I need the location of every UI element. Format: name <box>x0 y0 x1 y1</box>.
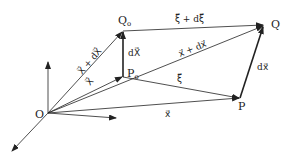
label-vector-X: X⃗ <box>83 76 95 88</box>
label-vector-dx: dx⃗ <box>257 62 269 72</box>
label-vector-dX: dX⃗ <box>128 47 140 58</box>
deformation-vector-diagram: O Qo Po Q P X⃗ + dX⃗ X⃗ dX⃗ ξ⃗ + dξ⃗ x⃗ … <box>0 0 291 160</box>
label-vector-x: x⃗ <box>165 109 171 119</box>
label-point-Q: Q <box>271 18 280 31</box>
axis-right <box>48 113 116 118</box>
vector-xi-plus-dxi <box>123 25 263 31</box>
label-vector-X-plus-dX: X⃗ + dX⃗ <box>75 45 103 76</box>
label-point-Q0: Qo <box>118 14 131 28</box>
label-vector-x-plus-dx: x⃗ + dx⃗ <box>177 38 209 59</box>
label-point-P: P <box>238 100 246 113</box>
label-point-P0: Po <box>127 67 139 81</box>
vector-x <box>48 98 239 113</box>
label-vector-xi-plus-dxi: ξ⃗ + dξ⃗ <box>175 13 204 24</box>
label-vector-xi: ξ⃗ <box>177 73 182 84</box>
label-point-O: O <box>35 108 44 121</box>
